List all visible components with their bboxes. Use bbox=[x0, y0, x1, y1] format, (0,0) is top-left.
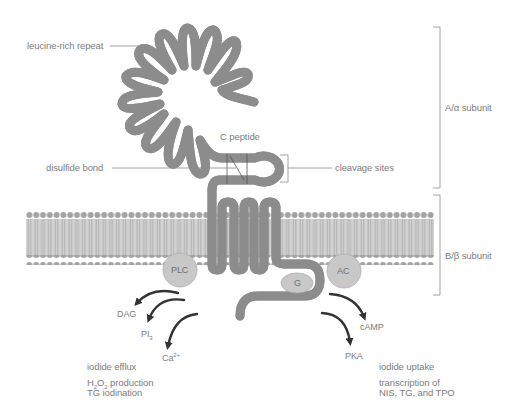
plc-label: PLC bbox=[171, 265, 188, 276]
pka-label: PKA bbox=[345, 351, 363, 362]
iodide-uptake-label: iodide uptake bbox=[379, 361, 434, 372]
tshr-diagram bbox=[0, 0, 522, 418]
tg-iodination-label: TG iodination bbox=[87, 387, 142, 398]
ac-label: AC bbox=[337, 266, 349, 277]
arrow-pi3 bbox=[149, 299, 184, 319]
arrow-ca bbox=[168, 314, 197, 346]
dag-label: DAG bbox=[117, 309, 136, 320]
arrow-dag bbox=[137, 291, 178, 303]
tsh-receptor bbox=[122, 28, 320, 316]
camp-label: cAMP bbox=[360, 322, 384, 333]
disulfide-bond-label: disulfide bond bbox=[46, 162, 103, 173]
pi3-label: PI3 bbox=[141, 329, 153, 340]
arrow-pka bbox=[322, 313, 350, 342]
arrow-camp bbox=[330, 294, 364, 317]
b-subunit-label: B/β subunit bbox=[445, 250, 492, 261]
nis-tg-tpo-label: NIS, TG, and TPO bbox=[379, 387, 455, 398]
g-label: G bbox=[294, 278, 301, 289]
iodide-efflux-label: iodide efflux bbox=[87, 361, 136, 372]
ca-label: Ca2+ bbox=[162, 353, 180, 364]
c-peptide-label: C peptide bbox=[220, 131, 260, 142]
a-subunit-label: A/α subunit bbox=[445, 102, 492, 113]
cleavage-sites-label: cleavage sites bbox=[335, 162, 394, 173]
leucine-rich-repeat-label: leucine-rich repeat bbox=[27, 40, 103, 51]
